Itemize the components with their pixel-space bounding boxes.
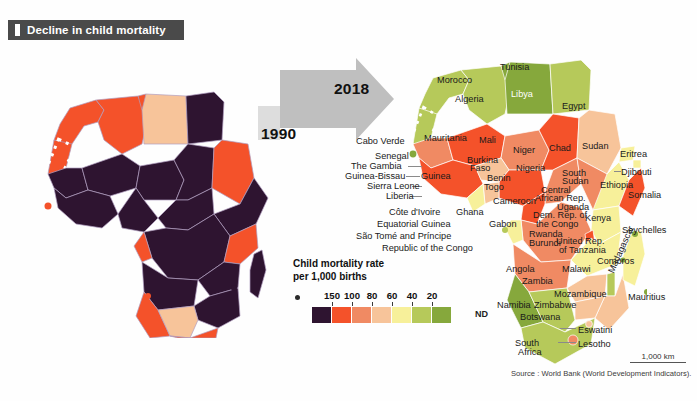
map-legend: Child mortality rate per 1,000 births 15…	[293, 258, 468, 326]
africa-1990-map	[18, 48, 270, 338]
year-label-1990: 1990	[261, 125, 296, 143]
legend-tick-60: 60	[387, 290, 398, 301]
country-1990-egypt	[186, 92, 224, 144]
country-label-algeria: Algeria	[455, 95, 484, 105]
legend-swatch-4	[392, 307, 411, 323]
island-1990-saotome	[145, 293, 151, 299]
island-1990-caboverde	[45, 203, 52, 210]
country-label-of-tanzania: of Tanzania	[559, 246, 606, 256]
scale-bar-label: 1,000 km	[630, 352, 686, 361]
legend-tick-20: 20	[427, 290, 438, 301]
country-label-togo: Togo	[484, 183, 504, 193]
country-label-c-te-d-ivoire: Côte d'Ivoire	[389, 208, 440, 218]
legend-tick-80: 80	[367, 290, 378, 301]
leader-line-gbissau	[406, 176, 420, 177]
country-label-zimbabwe: Zimbabwe	[534, 301, 576, 311]
source-note: Source : World Bank (World Development I…	[511, 369, 691, 378]
legend-tickmark-100	[352, 302, 353, 306]
country-label-eritrea: Eritrea	[620, 150, 647, 160]
infographic-root: Decline in child mortality	[0, 0, 697, 401]
country-label-s-o-tom-and-pr-ncipe: São Tomé and Príncipe	[356, 232, 451, 242]
country-label-gabon: Gabon	[489, 220, 517, 230]
country-label-botswana: Botswana	[520, 313, 560, 323]
legend-tickmark-60	[392, 302, 393, 306]
legend-title-line1: Child mortality rate	[293, 258, 468, 271]
legend-tick-40: 40	[407, 290, 418, 301]
leader-line-lesotho	[558, 342, 576, 343]
scale-bar: 1,000 km	[630, 352, 686, 363]
country-label-africa: Africa	[518, 348, 542, 358]
country-label-ghana: Ghana	[456, 208, 484, 218]
country-label-tunisia: Tunisia	[500, 63, 529, 73]
country-label-guinea: Guinea	[421, 172, 451, 182]
legend-tickmark-40	[412, 302, 413, 306]
legend-swatch-0	[312, 307, 331, 323]
square-bullet-icon	[15, 24, 20, 36]
legend-scale: 15010080604020 ND	[293, 290, 468, 326]
legend-swatch-3	[372, 307, 391, 323]
country-label-nigeria: Nigeria	[516, 164, 545, 174]
island-1990-comoros	[231, 285, 237, 291]
country-label-mali: Mali	[479, 136, 496, 146]
legend-swatches	[312, 307, 451, 323]
country-label-liberia: Liberia	[386, 192, 414, 202]
country-label-cabo-verde: Cabo Verde	[356, 137, 405, 147]
country-label-djibouti: Djibouti	[621, 168, 652, 178]
leader-line-eswatini	[560, 328, 576, 329]
legend-title-line2: per 1,000 births	[293, 271, 468, 284]
year-label-2018: 2018	[334, 80, 369, 98]
country-label-malawi: Malawi	[562, 265, 591, 275]
country-label-mauritius: Mauritius	[628, 293, 665, 303]
country-label-mozambique: Mozambique	[554, 290, 607, 300]
country-1990-madagascar	[250, 250, 266, 298]
country-label-namibia: Namibia	[497, 301, 531, 311]
page-title-banner: Decline in child mortality	[8, 20, 184, 40]
country-label-angola: Angola	[506, 265, 535, 275]
page-title: Decline in child mortality	[27, 24, 166, 36]
legend-tickmark-150	[332, 302, 333, 306]
leader-line-djibouti	[614, 171, 621, 172]
country-label-sudan: Sudan	[582, 142, 609, 152]
scale-bar-line	[630, 362, 686, 363]
legend-nd-label: ND	[475, 309, 488, 319]
legend-swatch-5	[412, 307, 431, 323]
country-1990-zambia	[194, 288, 240, 328]
legend-swatch-2	[352, 307, 371, 323]
country-label-equatorial-guinea: Equatorial Guinea	[377, 220, 451, 230]
legend-ticks: 15010080604020	[312, 290, 452, 304]
country-2018-malawi	[607, 272, 615, 296]
leader-line-gambia	[408, 166, 422, 167]
country-label-mauritania: Mauritania	[424, 134, 467, 144]
legend-tick-100: 100	[344, 290, 360, 301]
island-2018-caboverde	[410, 151, 417, 158]
country-label-libya: Libya	[511, 90, 533, 100]
country-label-niger: Niger	[513, 146, 535, 156]
legend-tick-150: 150	[324, 290, 340, 301]
country-label-eswatini: Eswatini	[578, 326, 612, 336]
legend-dot-icon	[295, 295, 300, 300]
legend-swatch-1	[332, 307, 351, 323]
country-2018-lesotho	[568, 335, 578, 345]
legend-swatch-6	[432, 307, 451, 323]
legend-tickmark-20	[432, 302, 433, 306]
country-label-kenya: Kenya	[585, 214, 611, 224]
legend-tickmark-80	[372, 302, 373, 306]
country-label-morocco: Morocco	[437, 76, 472, 86]
country-1990-mali	[82, 154, 140, 196]
country-label-somalia: Somalia	[628, 191, 661, 201]
country-label-egypt: Egypt	[562, 102, 586, 112]
country-label-chad: Chad	[549, 144, 571, 154]
country-label-zambia: Zambia	[522, 277, 553, 287]
country-label-lesotho: Lesotho	[578, 340, 611, 350]
country-label-republic-of-the-congo: Republic of the Congo	[382, 244, 473, 254]
country-1990-libya	[142, 94, 188, 144]
country-label-cameroon: Cameroon	[493, 197, 536, 207]
